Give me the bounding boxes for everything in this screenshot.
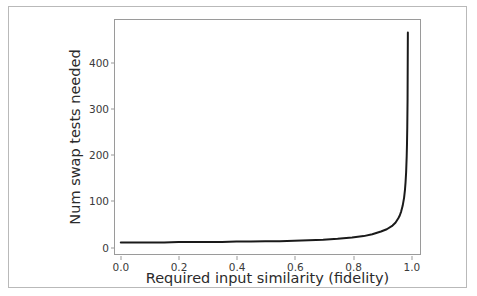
x-tick-mark bbox=[411, 256, 412, 260]
y-tick-mark bbox=[111, 108, 115, 109]
figure-frame: 0100200300400 0.00.20.40.60.81.0 Require… bbox=[8, 6, 467, 288]
x-tick-mark bbox=[179, 256, 180, 260]
x-tick-mark bbox=[120, 256, 121, 260]
y-tick-mark bbox=[111, 201, 115, 202]
curve-plot bbox=[115, 20, 420, 254]
x-axis-label: Required input similarity (fidelity) bbox=[114, 270, 421, 286]
y-axis-label: Num swap tests needed bbox=[67, 19, 85, 255]
y-tick-mark bbox=[111, 155, 115, 156]
x-tick-mark bbox=[295, 256, 296, 260]
y-tick-mark bbox=[111, 247, 115, 248]
data-series-line bbox=[121, 32, 408, 242]
y-tick-mark bbox=[111, 62, 115, 63]
x-tick-mark bbox=[237, 256, 238, 260]
x-tick-mark bbox=[353, 256, 354, 260]
plot-area: 0100200300400 0.00.20.40.60.81.0 bbox=[114, 19, 421, 255]
